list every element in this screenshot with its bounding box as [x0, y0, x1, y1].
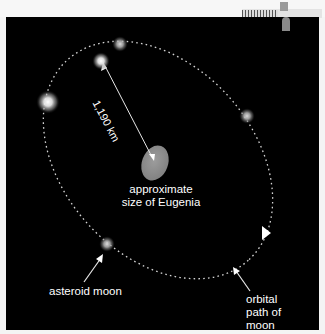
orbital-path-label-line1: orbital — [246, 293, 281, 306]
moon-position-1 — [112, 36, 128, 52]
orbital-path-pointer — [233, 267, 250, 291]
orbital-path-label: orbital path of moon — [246, 293, 281, 332]
scanner-artifact-knob — [282, 17, 290, 31]
moon-position-4 — [239, 108, 255, 124]
orbital-path-label-line3: moon — [246, 319, 281, 332]
moon-position-5 — [99, 236, 115, 252]
orbit-diagram — [0, 0, 325, 334]
asteroid-label-line2: size of Eugenia — [112, 196, 210, 209]
eugenia-asteroid — [137, 142, 174, 185]
asteroid-label: approximate size of Eugenia — [112, 183, 210, 209]
asteroid-label-line1: approximate — [112, 183, 210, 196]
orbital-path-label-line2: path of — [246, 306, 281, 319]
moon-position-3 — [36, 90, 60, 114]
asteroid-moon-pointer — [84, 254, 103, 282]
distance-arrow — [101, 62, 155, 161]
orbit-direction-arrowhead — [262, 226, 271, 240]
moon-position-2 — [92, 52, 110, 70]
asteroid-moon-label: asteroid moon — [49, 285, 122, 298]
